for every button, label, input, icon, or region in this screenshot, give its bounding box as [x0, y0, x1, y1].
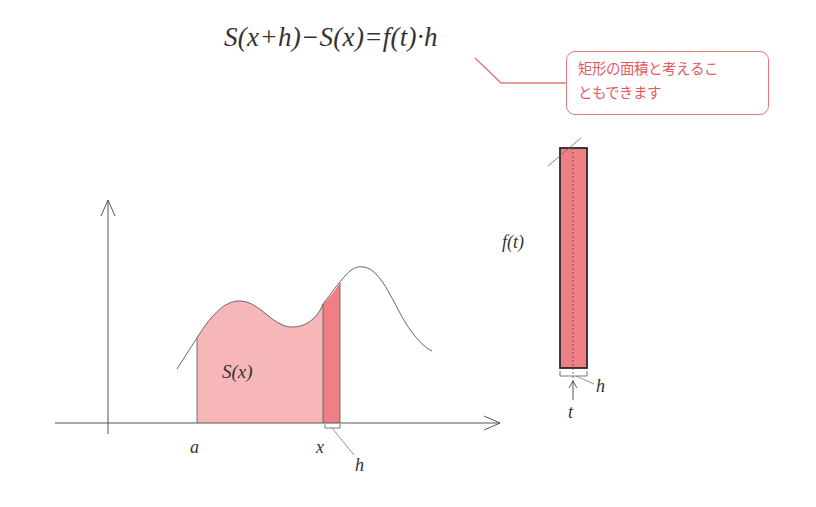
x-label-a: a — [190, 437, 199, 457]
graph-h-label: h — [355, 455, 364, 475]
rectangle-point-label: t — [568, 402, 574, 422]
rectangle-height-label: f(t) — [502, 232, 524, 253]
rectangle-f-t-h — [560, 148, 587, 368]
h-bracket — [325, 424, 340, 428]
x-label-x: x — [315, 437, 324, 457]
area-strip — [323, 283, 340, 423]
rectangle-width-label: h — [596, 376, 605, 396]
t-arrow-icon — [569, 381, 577, 400]
area-region — [197, 301, 323, 423]
area-label: S(x) — [222, 361, 253, 383]
diagram-canvas: S(x) a x h f(t) h t — [0, 0, 816, 507]
rectangle-h-bracket — [560, 371, 587, 376]
callout-leader — [475, 58, 566, 83]
